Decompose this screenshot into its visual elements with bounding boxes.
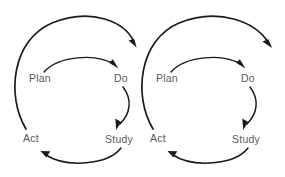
- arc-plan-to-do-left: [44, 57, 113, 72]
- node-label-study-right: Study: [232, 133, 260, 145]
- node-label-plan-left: Plan: [29, 72, 51, 84]
- cycle-left: Plan Do Study Act: [15, 16, 137, 163]
- outer-spiral-arrowhead-right: [262, 39, 272, 48]
- node-label-act-right: Act: [150, 132, 166, 144]
- arc-do-to-study-right: [247, 87, 256, 124]
- outer-spiral-arrowhead-left: [129, 39, 137, 47]
- node-label-do-left: Do: [114, 72, 128, 84]
- node-label-act-left: Act: [23, 132, 39, 144]
- arc-study-to-act-left: [46, 148, 121, 163]
- node-label-study-left: Study: [105, 133, 133, 145]
- arc-do-to-study-left: [120, 87, 129, 124]
- arrowhead-plan-to-do-left: [109, 59, 118, 68]
- cycle-right: Plan Do Study Act: [142, 16, 272, 163]
- arc-study-to-act-right: [173, 148, 248, 163]
- arc-plan-to-do-right: [171, 57, 240, 72]
- arrowhead-plan-to-do-right: [236, 59, 245, 68]
- node-label-plan-right: Plan: [156, 72, 178, 84]
- node-label-do-right: Do: [241, 72, 255, 84]
- pdsa-diagram: Plan Do Study Act Plan Do Study Act: [0, 0, 285, 177]
- pdsa-diagram-canvas: Plan Do Study Act Plan Do Study Act: [0, 0, 285, 177]
